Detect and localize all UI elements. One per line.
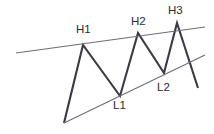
trough-label-l1: L1	[113, 99, 126, 111]
lower-support-trendline	[64, 55, 205, 123]
peak-label-h3: H3	[168, 4, 183, 16]
peak-label-h1: H1	[76, 23, 91, 35]
pattern-diagram: H1 H2 H3 L1 L2	[0, 0, 214, 134]
upper-resistance-trendline	[16, 27, 205, 53]
price-zigzag-path	[64, 23, 198, 123]
peak-label-h2: H2	[131, 15, 146, 27]
trough-label-l2: L2	[157, 81, 170, 93]
pattern-svg-canvas	[0, 0, 214, 134]
